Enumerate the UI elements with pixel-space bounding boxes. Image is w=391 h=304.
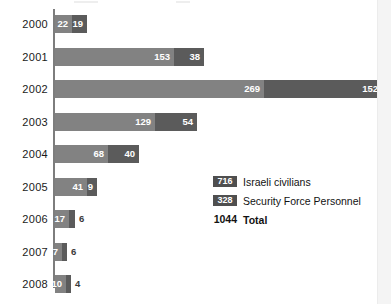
bar-value-label: 40 — [124, 149, 139, 159]
year-label: 2004 — [8, 148, 48, 160]
bar-segment-forces: 19 — [72, 15, 87, 33]
page-edge-strip — [377, 0, 391, 304]
year-label: 2008 — [8, 278, 48, 290]
bar-segment-civilians: 129 — [55, 113, 155, 131]
bar-segment-forces: 54 — [155, 113, 197, 131]
legend-label-forces: Security Force Personnel — [243, 195, 361, 207]
year-label: 2001 — [8, 51, 48, 63]
legend-item-security-force-personnel: 328 Security Force Personnel — [213, 193, 363, 208]
bar-segment-civilians: 68 — [55, 145, 108, 163]
bar-row: 2002269152 — [0, 76, 378, 102]
bar-value-label: 10 — [51, 279, 66, 289]
bar-segment-forces: 40 — [108, 145, 139, 163]
bar-row: 20046840 — [0, 141, 378, 167]
bar-value-label: 7 — [53, 247, 62, 257]
bar-row: 20002219 — [0, 11, 378, 37]
year-label: 2003 — [8, 116, 48, 128]
bar-row: 2008104 — [0, 271, 378, 297]
bar-value-label: 17 — [54, 214, 69, 224]
stacked-bar: 6840 — [55, 145, 139, 163]
bar-segment-civilians: 41 — [55, 178, 87, 196]
bar-segment-civilians: 153 — [55, 48, 174, 66]
legend-item-israeli-civilians: 716 Israeli civilians — [213, 174, 363, 189]
year-label: 2002 — [8, 83, 48, 95]
legend-swatch-icon-forces: 328 — [213, 195, 237, 206]
legend-count-civilians: 716 — [217, 177, 232, 186]
bar-value-label: 153 — [154, 52, 174, 62]
bar-value-label: 68 — [93, 149, 108, 159]
stacked-bar-chart: 2000221920011533820022691522003129542004… — [0, 0, 391, 304]
year-label: 2007 — [8, 246, 48, 258]
stacked-bar: 2219 — [55, 15, 87, 33]
bar-segment-civilians: 10 — [55, 275, 66, 293]
bar-rows: 2000221920011533820022691522003129542004… — [0, 0, 378, 304]
bar-value-label: 22 — [57, 19, 72, 29]
legend-item-total: 1044 Total — [213, 212, 363, 227]
bar-value-label: 6 — [75, 210, 84, 228]
legend-label-total: Total — [243, 214, 267, 226]
bar-value-label: 9 — [88, 182, 97, 192]
bar-row: 200776 — [0, 239, 378, 265]
stacked-bar: 76 — [55, 243, 76, 261]
bar-value-label: 4 — [71, 275, 80, 293]
stacked-bar: 104 — [55, 275, 80, 293]
stacked-bar: 176 — [55, 210, 84, 228]
bar-value-label: 41 — [72, 182, 87, 192]
bar-segment-civilians: 22 — [55, 15, 72, 33]
bar-row: 200115338 — [0, 44, 378, 70]
bar-segment-civilians: 7 — [55, 243, 62, 261]
legend-count-forces: 328 — [217, 196, 232, 205]
bar-segment-forces: 38 — [174, 48, 204, 66]
chart-legend: 716 Israeli civilians 328 Security Force… — [213, 174, 363, 231]
bar-row: 200312954 — [0, 109, 378, 135]
bar-segment-civilians: 17 — [55, 210, 69, 228]
bar-segment-forces: 152 — [264, 80, 382, 98]
legend-label-civilians: Israeli civilians — [243, 176, 311, 188]
year-label: 2005 — [8, 181, 48, 193]
stacked-bar: 419 — [55, 178, 97, 196]
bar-value-label: 6 — [67, 243, 76, 261]
bar-segment-forces: 9 — [87, 178, 97, 196]
bar-value-label: 269 — [244, 84, 264, 94]
bar-value-label: 38 — [189, 52, 204, 62]
bar-segment-civilians: 269 — [55, 80, 264, 98]
bar-value-label: 129 — [135, 117, 155, 127]
year-label: 2000 — [8, 18, 48, 30]
bar-value-label: 19 — [72, 19, 87, 29]
plot-area: 2000221920011533820022691522003129542004… — [0, 0, 378, 304]
legend-swatch-icon-civilians: 716 — [213, 176, 237, 187]
stacked-bar: 15338 — [55, 48, 204, 66]
legend-count-total: 1044 — [213, 214, 237, 225]
year-label: 2006 — [8, 213, 48, 225]
stacked-bar: 269152 — [55, 80, 382, 98]
bar-value-label: 54 — [182, 117, 197, 127]
stacked-bar: 12954 — [55, 113, 197, 131]
